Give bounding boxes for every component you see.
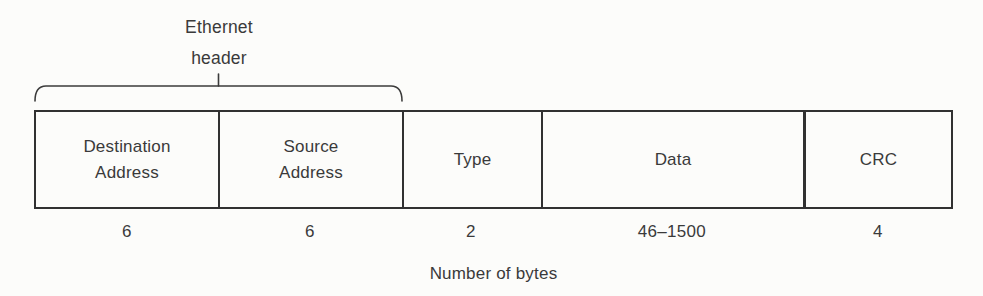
field-label-line: Type [454,147,492,173]
bytes-data: 46–1500 [602,222,742,242]
bytes-axis-caption: Number of bytes [34,264,953,284]
field-destination-address: Destination Address [36,112,220,207]
bytes-crc: 4 [808,222,948,242]
bytes-type: 2 [401,222,541,242]
ethernet-frame-diagram: Ethernet header Destination Address Sour… [0,0,983,296]
field-label-line: Source [283,134,338,160]
field-crc: CRC [806,112,951,207]
field-source-address: Source Address [220,112,404,207]
ethernet-header-label-line2: header [118,43,320,74]
ethernet-header-label-line1: Ethernet [118,12,320,43]
ethernet-frame-row: Destination Address Source Address Type … [34,110,953,209]
ethernet-header-label: Ethernet header [118,12,320,74]
field-label-line: CRC [860,147,897,173]
field-label-line: Destination [83,134,170,160]
field-label-line: Address [95,160,159,186]
bytes-destination-address: 6 [57,222,197,242]
field-label-line: Address [279,160,343,186]
field-type: Type [404,112,543,207]
field-data: Data [543,112,806,207]
bytes-source-address: 6 [240,222,380,242]
field-label-line: Data [655,147,692,173]
